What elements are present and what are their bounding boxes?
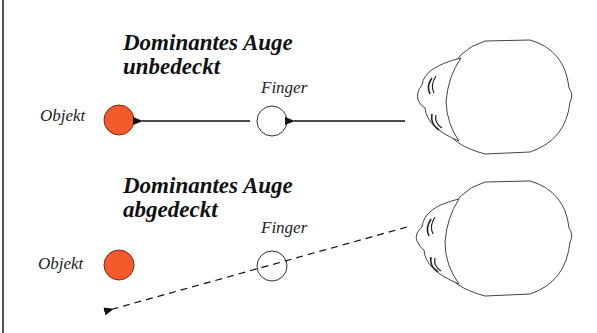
diagram-canvas [0,0,597,333]
panel-1-finger-circle [257,106,287,136]
panel-1-head-icon [418,40,572,154]
panel-2-diagram [104,181,572,309]
panel-2-dashed-sight-line [113,227,407,309]
panel-2-finger-circle [257,251,287,281]
panel-2-head-icon [416,181,572,296]
panel-1-diagram [104,40,572,154]
panel-1-object-circle [104,105,134,135]
panel-2-object-circle [104,250,134,280]
